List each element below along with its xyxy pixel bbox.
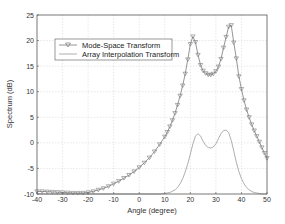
y-tick-label: 25 [26, 12, 34, 19]
x-tick-label: -30 [57, 196, 67, 203]
y-tick-label: 20 [26, 37, 34, 44]
y-tick-label: 0 [30, 139, 34, 146]
x-tick-label: 0 [137, 196, 141, 203]
y-axis-label: Spectrum (dB) [5, 79, 14, 128]
x-tick-label: 40 [238, 196, 246, 203]
legend: Mode-Space Transform Array Interpolation… [55, 39, 179, 60]
y-tick-label: 10 [26, 88, 34, 95]
x-axis-label: Angle (degree) [127, 206, 177, 215]
y-tick-label: 15 [26, 63, 34, 70]
y-tick-label: -10 [24, 191, 34, 198]
x-tick-label: 50 [263, 196, 271, 203]
spectrum-chart: -40-30-20-1001020304050 -10-50510152025 … [0, 0, 285, 224]
y-tick-label: -5 [28, 165, 34, 172]
x-tick-label: -10 [109, 196, 119, 203]
x-tick-label: 30 [212, 196, 220, 203]
x-tick-label: 20 [186, 196, 194, 203]
x-tick-label: 10 [161, 196, 169, 203]
legend-label-mode-space: Mode-Space Transform [82, 41, 160, 50]
y-tick-label: 5 [30, 114, 34, 121]
legend-label-array-interp: Array Interpolation Transform [82, 50, 179, 59]
x-tick-label: -20 [83, 196, 93, 203]
